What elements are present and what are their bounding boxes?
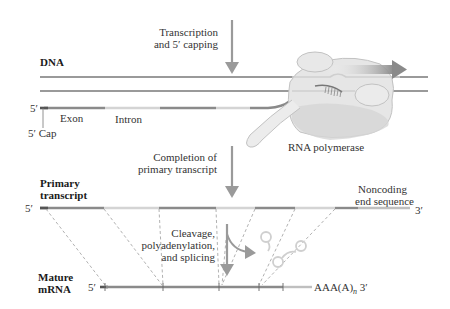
down-arrow-icon — [225, 20, 239, 74]
rna-polymerase-label: RNA polymerase — [288, 141, 364, 153]
down-arrow-icon — [225, 146, 239, 198]
mature-label-line2: mRNA — [38, 283, 71, 295]
intron-label: Intron — [115, 113, 142, 125]
polya-tail-label: AAA(A)n 3′ — [314, 281, 368, 296]
step3-label-line3: and splicing — [162, 251, 216, 263]
noncoding-label-line1: Noncoding — [358, 183, 407, 195]
primary-label-line1: Primary — [40, 177, 80, 189]
noncoding-label-line2: end sequence — [355, 195, 414, 207]
mrna-processing-diagram: Transcription and 5′ capping DNA 5′ Exon… — [0, 0, 450, 309]
down-arrow-icon — [220, 224, 234, 276]
exon-label: Exon — [60, 112, 84, 124]
primary-three-prime-label: 3′ — [415, 204, 423, 216]
primary-label-line2: transcript — [40, 189, 87, 201]
step3-label-line1: Cleavage, — [171, 227, 215, 239]
step1-label-line2: and 5′ capping — [154, 38, 219, 50]
mature-mrna-line — [100, 283, 312, 291]
step2-label-line1: Completion of — [153, 151, 217, 163]
step1-label-line1: Transcription — [159, 26, 218, 38]
excised-lariats — [261, 232, 306, 267]
five-cap-label: 5′ Cap — [28, 127, 57, 139]
step2-label-line2: primary transcript — [138, 163, 217, 175]
dna-label: DNA — [40, 56, 64, 68]
mature-label-line1: Mature — [38, 271, 73, 283]
primary-five-prime-label: 5′ — [25, 202, 33, 214]
curved-arrow-icon — [227, 234, 256, 259]
mature-five-prime-label: 5′ — [88, 281, 96, 293]
step3-label-line2: polyadenylation, — [141, 239, 215, 251]
five-prime-label: 5′ — [30, 102, 38, 114]
